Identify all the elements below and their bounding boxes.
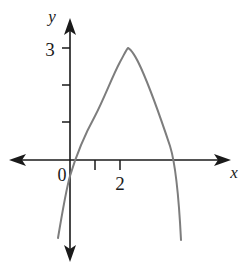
x-axis-label: x	[229, 163, 238, 182]
parabola-figure: y x 3 2 0	[0, 0, 244, 275]
y-axis-group	[64, 18, 76, 262]
y-axis-label: y	[46, 7, 56, 26]
graph-canvas: y x 3 2 0	[0, 0, 244, 275]
x-tick-label-2: 2	[115, 173, 125, 194]
origin-label: 0	[58, 165, 67, 185]
parabola-curve	[58, 48, 181, 240]
y-axis-ticks	[62, 48, 70, 122]
y-tick-label-3: 3	[45, 39, 55, 60]
x-axis-ticks	[95, 160, 120, 170]
